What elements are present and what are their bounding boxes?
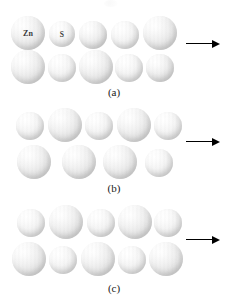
zinc-atom — [79, 21, 107, 49]
sulfur-atom — [49, 21, 75, 47]
zinc-atom — [62, 145, 96, 179]
arrow-head-icon — [212, 236, 220, 244]
zinc-atom — [146, 54, 174, 82]
sulfur-atom — [85, 112, 113, 140]
arrow-shaft — [186, 239, 213, 240]
zinc-atom — [79, 50, 113, 84]
sulfur-atom — [17, 209, 45, 237]
panel-caption-c: (c) — [0, 282, 228, 294]
sulfur-atom — [111, 21, 139, 49]
zinc-atom — [48, 108, 82, 142]
sulfur-atom — [145, 149, 173, 177]
crystal-slip-figure: ZnS(a)(b)(c) — [0, 0, 228, 306]
zinc-atom — [17, 145, 51, 179]
zinc-atom — [81, 242, 115, 276]
sulfur-atom — [48, 54, 76, 82]
zinc-atom — [11, 16, 45, 50]
sulfur-atom — [115, 54, 143, 82]
zinc-atom — [12, 242, 46, 276]
sulfur-atom — [49, 246, 77, 274]
zinc-atom — [11, 50, 45, 84]
sulfur-atom — [154, 112, 182, 140]
zinc-atom — [149, 242, 183, 276]
shear-force-arrow-c — [186, 235, 220, 245]
sulfur-atom — [87, 209, 115, 237]
zinc-atom — [143, 16, 177, 50]
sulfur-atom — [154, 209, 182, 237]
sulfur-atom — [16, 112, 44, 140]
zinc-atom — [117, 108, 151, 142]
zinc-atom — [118, 205, 152, 239]
zinc-atom — [103, 145, 137, 179]
sulfur-atom — [118, 246, 146, 274]
zinc-atom — [49, 205, 83, 239]
